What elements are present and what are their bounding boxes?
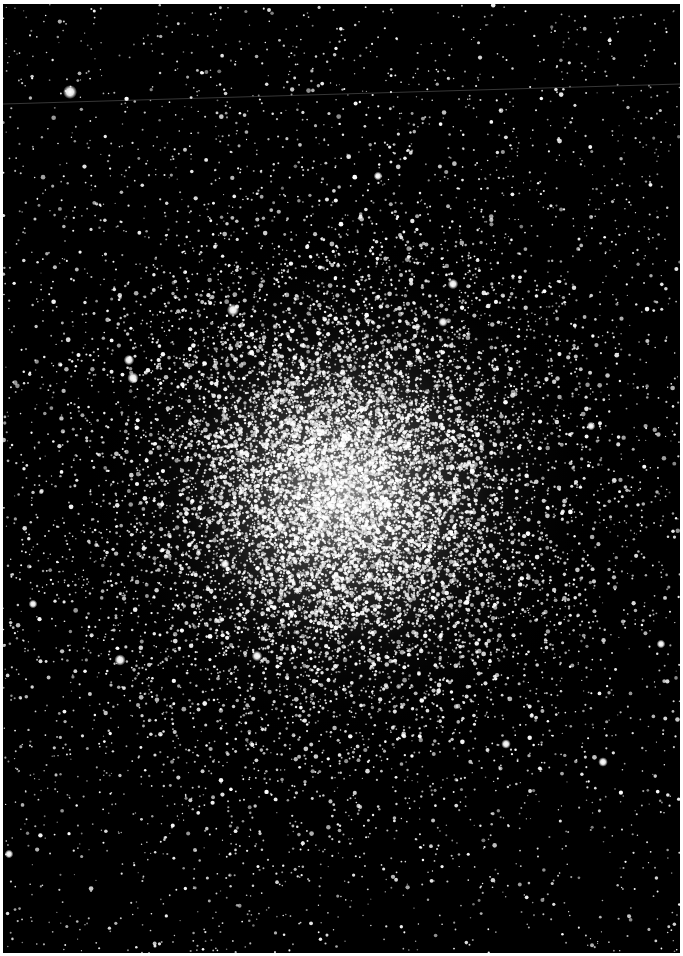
star-cluster-photo [3,4,680,953]
star-field-canvas [3,4,680,953]
image-frame [0,0,683,956]
